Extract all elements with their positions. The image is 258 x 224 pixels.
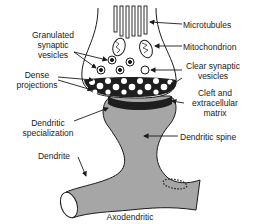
label-dendrite: Dendrite	[34, 151, 74, 161]
label-granulated-vesicles: Granulated synaptic vesicles	[28, 30, 78, 60]
diagram-title: Axodendritic	[90, 212, 170, 222]
label-line: Clear synaptic	[182, 61, 244, 71]
clear-vesicle	[141, 66, 149, 74]
label-mitochondrion: Mitochondrion	[183, 42, 236, 52]
label-dendritic-spine: Dendritic spine	[180, 132, 236, 142]
label-microtubules: Microtubules	[183, 20, 231, 30]
label-dense-projections: Dense projections	[12, 70, 62, 90]
label-line: vesicles	[28, 50, 78, 60]
axodendritic-synapse-diagram: Granulated synaptic vesicles Dense proje…	[0, 0, 258, 224]
label-cleft: Cleft and extracellular matrix	[184, 88, 246, 118]
label-line: extracellular	[184, 98, 246, 108]
presynaptic-terminal	[82, 6, 176, 98]
label-line: synaptic	[28, 40, 78, 50]
label-line: projections	[12, 80, 62, 90]
label-dendritic-specialization: Dendritic specialization	[20, 118, 76, 138]
label-line: specialization	[20, 128, 76, 138]
label-line: vesicles	[182, 71, 244, 81]
label-line: Cleft and	[184, 88, 246, 98]
label-line: matrix	[184, 108, 246, 118]
label-line: Granulated	[28, 30, 78, 40]
label-clear-vesicles: Clear synaptic vesicles	[182, 61, 244, 81]
label-line: Dense	[12, 70, 62, 80]
label-line: Dendritic	[20, 118, 76, 128]
